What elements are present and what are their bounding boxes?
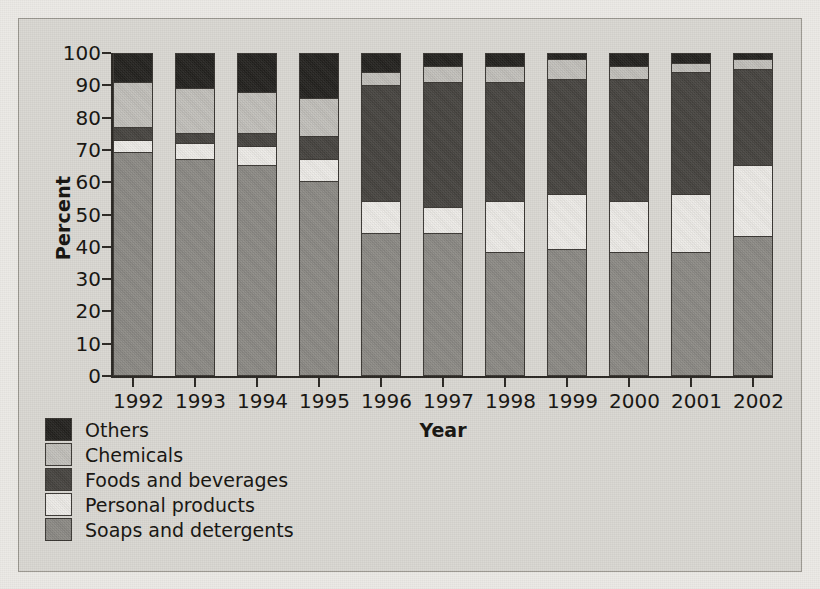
- bar-segment[interactable]: [176, 134, 214, 144]
- bar-segment[interactable]: [424, 54, 462, 67]
- bar-segment[interactable]: [734, 60, 772, 70]
- bar-segment[interactable]: [486, 67, 524, 83]
- bar-segment[interactable]: [114, 128, 152, 141]
- bar-segment[interactable]: [424, 234, 462, 375]
- stacked-bar[interactable]: [733, 53, 773, 376]
- legend-label: Chemicals: [85, 444, 183, 466]
- stacked-bar[interactable]: [485, 53, 525, 376]
- bar-segment[interactable]: [176, 144, 214, 160]
- bar-segment[interactable]: [548, 80, 586, 196]
- bar-column[interactable]: [671, 53, 711, 376]
- bar-segment[interactable]: [610, 80, 648, 202]
- x-axis-labels: 1992199319941995199619971998199920002001…: [113, 389, 773, 413]
- bar-segment[interactable]: [362, 54, 400, 73]
- bar-segment[interactable]: [300, 99, 338, 138]
- bar-segment[interactable]: [114, 153, 152, 374]
- bar-segment[interactable]: [548, 60, 586, 79]
- bar-column[interactable]: [175, 53, 215, 376]
- bar-segment[interactable]: [610, 253, 648, 375]
- bar-segment[interactable]: [672, 64, 710, 74]
- bar-segment[interactable]: [362, 86, 400, 202]
- legend-item[interactable]: Foods and beverages: [45, 467, 465, 492]
- bar-column[interactable]: [237, 53, 277, 376]
- legend-label: Soaps and detergents: [85, 519, 294, 541]
- y-tick-label: 50: [76, 203, 101, 227]
- y-tick-label: 40: [76, 235, 101, 259]
- x-tick-mark: [423, 378, 463, 388]
- bar-segment[interactable]: [424, 208, 462, 234]
- bar-column[interactable]: [423, 53, 463, 376]
- bar-segment[interactable]: [176, 54, 214, 89]
- bar-segment[interactable]: [486, 83, 524, 202]
- bar-segment[interactable]: [238, 93, 276, 135]
- stacked-bar[interactable]: [423, 53, 463, 376]
- bar-segment[interactable]: [486, 202, 524, 253]
- bar-column[interactable]: [547, 53, 587, 376]
- x-tick-mark: [547, 378, 587, 388]
- bar-segment[interactable]: [610, 54, 648, 67]
- legend-item[interactable]: Chemicals: [45, 442, 465, 467]
- legend-item[interactable]: Soaps and detergents: [45, 517, 465, 542]
- bar-segment[interactable]: [672, 253, 710, 375]
- bar-segment[interactable]: [362, 234, 400, 375]
- bar-segment[interactable]: [300, 54, 338, 99]
- legend-item[interactable]: Personal products: [45, 492, 465, 517]
- y-tick-label: 90: [76, 73, 101, 97]
- stacked-bar[interactable]: [671, 53, 711, 376]
- bar-segment[interactable]: [610, 202, 648, 253]
- bar-segment[interactable]: [300, 137, 338, 159]
- legend-label: Foods and beverages: [85, 469, 288, 491]
- chart-legend: OthersChemicalsFoods and beveragesPerson…: [45, 417, 465, 542]
- bar-segment[interactable]: [114, 141, 152, 154]
- stacked-bar[interactable]: [113, 53, 153, 376]
- bar-segment[interactable]: [362, 202, 400, 234]
- bar-segment[interactable]: [362, 73, 400, 86]
- bar-segment[interactable]: [238, 134, 276, 147]
- bar-segment[interactable]: [734, 166, 772, 237]
- stacked-bar[interactable]: [361, 53, 401, 376]
- bar-segment[interactable]: [114, 83, 152, 128]
- bar-segment[interactable]: [672, 54, 710, 64]
- stacked-bar[interactable]: [547, 53, 587, 376]
- bar-segment[interactable]: [300, 182, 338, 375]
- bar-column[interactable]: [361, 53, 401, 376]
- plot-area: Percent 0102030405060708090100 199219931…: [19, 19, 803, 573]
- x-tick-label: 1998: [485, 389, 525, 413]
- bar-column[interactable]: [733, 53, 773, 376]
- x-tick-label: 1993: [175, 389, 215, 413]
- bar-column[interactable]: [299, 53, 339, 376]
- bar-segment[interactable]: [548, 250, 586, 375]
- legend-item[interactable]: Others: [45, 417, 465, 442]
- bar-segment[interactable]: [176, 160, 214, 375]
- bar-segment[interactable]: [486, 54, 524, 67]
- stacked-bar[interactable]: [609, 53, 649, 376]
- bar-segment[interactable]: [424, 67, 462, 83]
- legend-swatch: [45, 418, 72, 441]
- bar-segment[interactable]: [610, 67, 648, 80]
- legend-swatch: [45, 468, 72, 491]
- bar-segment[interactable]: [300, 160, 338, 182]
- stacked-bar[interactable]: [237, 53, 277, 376]
- bar-segment[interactable]: [672, 195, 710, 253]
- y-tick-mark: [102, 246, 111, 248]
- bar-column[interactable]: [113, 53, 153, 376]
- bar-column[interactable]: [609, 53, 649, 376]
- bar-segment[interactable]: [486, 253, 524, 375]
- bar-column[interactable]: [485, 53, 525, 376]
- bar-segment[interactable]: [238, 166, 276, 375]
- y-tick-label: 100: [63, 41, 101, 65]
- bar-segment[interactable]: [548, 195, 586, 250]
- bar-segment[interactable]: [672, 73, 710, 195]
- x-tick-label: 1995: [299, 389, 339, 413]
- x-tick-mark: [733, 378, 773, 388]
- stacked-bar[interactable]: [299, 53, 339, 376]
- bar-segment[interactable]: [176, 89, 214, 134]
- stacked-bar[interactable]: [175, 53, 215, 376]
- x-axis-ticks: [113, 378, 773, 388]
- bar-segment[interactable]: [734, 70, 772, 166]
- bar-segment[interactable]: [114, 54, 152, 83]
- bar-segment[interactable]: [734, 237, 772, 375]
- bar-segment[interactable]: [424, 83, 462, 208]
- bar-segment[interactable]: [238, 147, 276, 166]
- bar-segment[interactable]: [238, 54, 276, 93]
